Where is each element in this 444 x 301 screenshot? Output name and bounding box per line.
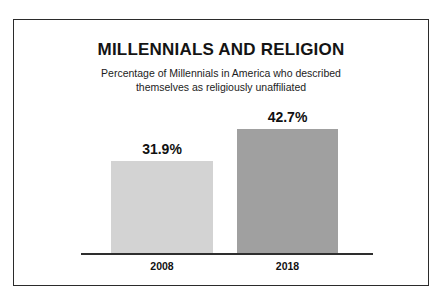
category-label-2018: 2018 [237,260,338,272]
plot-area: 31.9% 42.7% 2008 2018 [14,20,430,287]
chart-card: MILLENNIALS AND RELIGION Percentage of M… [13,19,429,286]
bar-2018[interactable] [237,129,338,254]
bar-2008[interactable] [111,161,213,254]
value-label-2008: 31.9% [111,141,213,157]
x-axis-baseline [81,253,373,255]
value-label-2018: 42.7% [237,109,338,125]
bar-group [14,20,430,254]
category-label-2008: 2008 [111,260,213,272]
